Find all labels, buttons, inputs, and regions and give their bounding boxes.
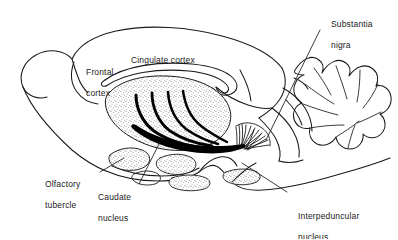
midbrain-outline: [259, 118, 280, 161]
retrosplenial-line: [240, 70, 251, 101]
cerebellum-outline: [293, 57, 391, 149]
label-olfactory-tubercle-line1: Olfactory: [45, 179, 80, 189]
label-substantia-nigra-line1: Substantia: [331, 19, 373, 29]
label-cingulate-cortex: Cingulate cortex: [121, 44, 195, 76]
ventral-blob-3: [132, 171, 161, 185]
cerebellum-fissures: [303, 66, 381, 148]
brainstem-upper-line: [272, 108, 299, 157]
label-substantia-nigra-line2: nigra: [331, 40, 351, 50]
olfactory-bulb-outline: [21, 51, 72, 98]
hypothalamus-outline: [199, 157, 237, 172]
label-interpeduncular-nucleus-line1: Interpeduncular: [298, 211, 359, 221]
brain-diagram-figure: Frontal cortex Cingulate cortex Substant…: [0, 0, 398, 239]
label-interpeduncular-nucleus-line2: nucleus: [298, 232, 328, 240]
label-caudate-nucleus-line1: Caudate: [98, 192, 131, 202]
cortex-posterior-descent: [259, 68, 285, 118]
label-substantia-nigra: Substantia nigra: [321, 8, 373, 61]
ventral-blob-4: [169, 175, 210, 191]
leader-line-substantia-nigra: [266, 30, 320, 140]
label-frontal-cortex-line1: Frontal: [86, 67, 114, 77]
label-olfactory-tubercle: Olfactory tubercle: [35, 168, 80, 221]
substantia-nigra-fiber-fan: [236, 124, 269, 150]
label-caudate-nucleus: Caudate nucleus: [88, 181, 131, 234]
label-olfactory-tubercle-line2: tubercle: [45, 200, 76, 210]
olfactory-tubercle-region: [109, 148, 150, 170]
brainstem-lower-line: [279, 160, 303, 162]
label-interpeduncular-nucleus: Interpeduncular nucleus: [288, 200, 359, 239]
cerebellum-peduncle-attachment: [294, 78, 308, 89]
label-frontal-cortex-line2: cortex: [86, 88, 110, 98]
label-caudate-nucleus-line2: nucleus: [98, 213, 128, 223]
label-cingulate-cortex-line1: Cingulate cortex: [131, 55, 195, 65]
ventral-blob-2: [156, 154, 196, 174]
label-frontal-cortex: Frontal cortex: [76, 56, 114, 109]
